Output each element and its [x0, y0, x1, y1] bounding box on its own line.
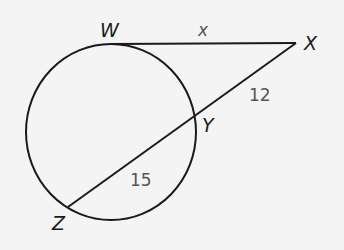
- circle: [26, 44, 196, 220]
- secant-segment-xz: [68, 43, 296, 207]
- label-w: W: [100, 19, 120, 41]
- measure-wx: x: [197, 20, 209, 40]
- measure-yz: 15: [130, 170, 152, 190]
- label-y: Y: [202, 114, 215, 136]
- label-x: X: [303, 32, 318, 54]
- tangent-segment-wx: [112, 43, 296, 44]
- geometry-diagram: W X Y Z x 12 15: [0, 0, 344, 250]
- label-z: Z: [51, 212, 66, 234]
- measure-xy: 12: [249, 85, 271, 105]
